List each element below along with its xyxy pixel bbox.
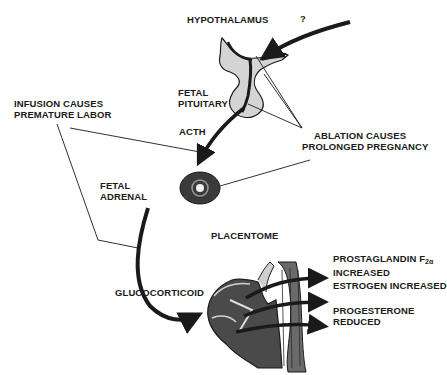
label-prostaglandin: PROSTAGLANDIN F2α INCREASED xyxy=(333,253,434,278)
fetal-adrenal-icon xyxy=(180,172,220,204)
label-infusion-line1: INFUSION CAUSES xyxy=(14,98,111,109)
label-fetal-pituitary-line1: FETAL xyxy=(178,87,228,98)
placentome-icon xyxy=(208,262,306,372)
glucocorticoid-arrow xyxy=(138,208,196,320)
label-ablation-line1: ABLATION CAUSES xyxy=(302,130,428,141)
label-prostaglandin-line2: INCREASED xyxy=(333,267,434,278)
label-fetal-adrenal-line1: FETAL xyxy=(100,180,147,191)
unknown-signal-arrow xyxy=(266,22,350,56)
label-prostaglandin-subscript: 2α xyxy=(425,258,433,265)
label-hypothalamus: HYPOTHALAMUS xyxy=(187,14,268,25)
label-prostaglandin-line1: PROSTAGLANDIN F xyxy=(333,253,425,264)
label-fetal-pituitary: FETAL PITUITARY xyxy=(178,87,228,109)
label-question-mark: ? xyxy=(300,13,306,24)
label-progesterone-line2: REDUCED xyxy=(333,316,414,327)
label-ablation: ABLATION CAUSES PROLONGED PREGNANCY xyxy=(302,130,428,152)
acth-arrow xyxy=(200,108,244,160)
label-progesterone-line1: PROGESTERONE xyxy=(333,305,414,316)
label-placentome: PLACENTOME xyxy=(211,230,278,241)
label-fetal-adrenal: FETAL ADRENAL xyxy=(100,180,147,202)
label-progesterone: PROGESTERONE REDUCED xyxy=(333,305,414,327)
label-infusion-line2: PREMATURE LABOR xyxy=(14,109,111,120)
label-fetal-adrenal-line2: ADRENAL xyxy=(100,191,147,202)
label-ablation-line2: PROLONGED PREGNANCY xyxy=(302,141,428,152)
label-estrogen: ESTROGEN INCREASED xyxy=(333,280,447,291)
label-acth: ACTH xyxy=(179,126,206,137)
label-infusion: INFUSION CAUSES PREMATURE LABOR xyxy=(14,98,111,120)
label-fetal-pituitary-line2: PITUITARY xyxy=(178,98,228,109)
label-glucocorticoid: GLUCOCORTICOID xyxy=(115,287,204,298)
